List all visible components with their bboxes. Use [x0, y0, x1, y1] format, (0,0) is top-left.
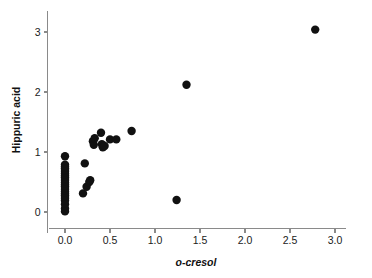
data-point — [182, 81, 190, 89]
x-tick-label: 2.0 — [238, 234, 253, 246]
x-tick-label: 0.5 — [103, 234, 118, 246]
plot-canvas: 0.00.51.01.52.02.53.00123 o-cresol Hippu… — [0, 0, 372, 278]
data-point — [61, 152, 69, 160]
data-point — [81, 159, 89, 167]
axes — [48, 11, 346, 233]
tick-labels: 0.00.51.01.52.02.53.00123 — [35, 26, 343, 246]
x-axis-title: o-cresol — [176, 256, 218, 268]
data-points — [61, 25, 320, 215]
data-point — [311, 25, 319, 33]
data-point — [112, 135, 120, 143]
data-point — [86, 176, 94, 184]
data-point — [100, 142, 108, 150]
y-tick-label: 0 — [35, 206, 41, 218]
y-axis-title: Hippuric acid — [10, 87, 22, 154]
x-tick-label: 1.5 — [193, 234, 208, 246]
y-tick-label: 3 — [35, 26, 41, 38]
scatter-plot-figure: 0.00.51.01.52.02.53.00123 o-cresol Hippu… — [0, 0, 372, 278]
x-tick-label: 0.0 — [58, 234, 73, 246]
x-tick-label: 3.0 — [328, 234, 343, 246]
data-point — [97, 129, 105, 137]
data-point — [172, 196, 180, 204]
data-point — [61, 207, 69, 215]
y-tick-label: 1 — [35, 146, 41, 158]
tick-marks — [44, 32, 336, 233]
data-point — [127, 127, 135, 135]
x-tick-label: 2.5 — [283, 234, 298, 246]
y-tick-label: 2 — [35, 86, 41, 98]
x-tick-label: 1.0 — [148, 234, 163, 246]
